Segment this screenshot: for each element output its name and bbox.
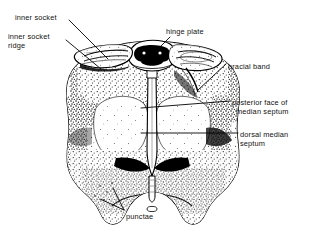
label-inner-socket-ridge-2: ridge	[8, 42, 25, 51]
label-posterior-face-2: median septum	[236, 108, 288, 117]
label-inner-socket: inner socket	[15, 14, 57, 23]
label-bracial-band: bracial band	[228, 63, 270, 72]
label-hinge-plate: hinge plate	[166, 28, 204, 37]
dorsal-median-septum	[147, 70, 157, 212]
label-dorsal-median-2: septum	[240, 140, 265, 149]
label-punctae: punctae	[126, 213, 153, 222]
brachiopod-valve-figure: inner socket inner socket ridge hinge pl…	[0, 0, 319, 240]
